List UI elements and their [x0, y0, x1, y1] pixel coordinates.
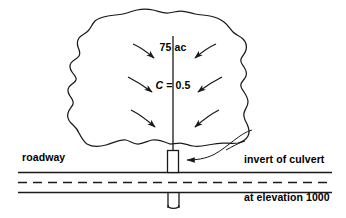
culvert-callout-text: invert of culvert at elevation 1000 slop…: [244, 128, 330, 218]
roadway-label: roadway: [22, 151, 65, 164]
figure-container: 75 ac C = 0.5 roadway invert of culvert …: [0, 0, 346, 218]
culvert-callout-leader-secondary: [226, 141, 245, 150]
area-value: 75 ac: [133, 41, 213, 54]
runoff-coefficient: C = 0.5: [133, 79, 213, 92]
culvert-through-embankment: [168, 151, 179, 173]
culvert-note-line-2: at elevation 1000: [244, 191, 330, 204]
runoff-coefficient-value: = 0.5: [163, 79, 190, 91]
culvert-note-line-1: invert of culvert: [244, 153, 330, 166]
culvert-callout-leader: [187, 130, 252, 160]
watershed-area-label: 75 ac C = 0.5: [133, 16, 213, 116]
culvert-outlet-pipe: [168, 205, 179, 208]
